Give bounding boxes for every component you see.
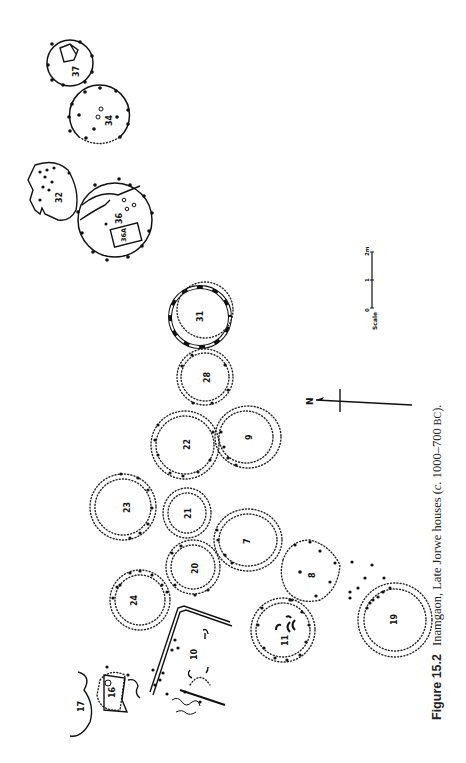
scale-tick-0: 0 — [364, 308, 370, 312]
caption-circa: c. — [430, 481, 444, 490]
house-label-17: 17 — [77, 701, 86, 712]
house-22: 22 — [151, 411, 219, 479]
house-23: 23 — [90, 472, 156, 540]
scale-tick-2: 2m — [364, 246, 370, 256]
site-plan: 37 34 32 36 36A 31 28 — [0, 0, 466, 763]
house-label-21: 21 — [184, 507, 193, 519]
caption-end: ). — [430, 405, 444, 412]
house-label-37: 37 — [72, 66, 81, 77]
house-20: 20 — [166, 540, 220, 597]
house-label-20: 20 — [191, 562, 200, 574]
house-16: 16 — [97, 665, 140, 712]
caption-era: BC — [432, 412, 443, 425]
house-label-34: 34 — [105, 114, 114, 126]
scale-tick-1: 1 — [364, 278, 370, 282]
caption-range: 1000–700 — [430, 425, 444, 481]
house-17: 17 — [70, 672, 92, 736]
house-10: 10 — [150, 606, 232, 714]
house-label-28: 28 — [203, 371, 212, 383]
north-label: N — [305, 397, 315, 405]
house-label-23: 23 — [123, 502, 132, 513]
figure-caption: Figure 15.2Inamgaon, Late Jorwe houses (… — [430, 405, 445, 720]
house-11: 11 — [251, 598, 315, 662]
house-label-24: 24 — [130, 594, 139, 606]
house-label-10: 10 — [190, 648, 199, 660]
house-label-9: 9 — [245, 434, 254, 440]
house-label-22: 22 — [183, 439, 192, 450]
house-label-19: 19 — [390, 613, 399, 625]
house-24: 24 — [110, 569, 170, 630]
house-9: 9 — [215, 406, 281, 468]
scale-label: Scale — [371, 312, 378, 330]
house-36: 36 36A — [76, 177, 154, 262]
house-label-16: 16 — [108, 686, 117, 698]
house-34: 34 — [67, 85, 130, 143]
figure-label: Figure 15.2 — [430, 654, 444, 720]
house-31: 31 — [170, 282, 233, 347]
north-arrow: N — [305, 389, 412, 412]
house-label-36a: 36A — [120, 228, 128, 242]
scale-bar: 0 1 2m Scale — [364, 246, 378, 330]
house-label-32: 32 — [55, 192, 64, 203]
house-21: 21 — [163, 488, 211, 538]
caption-text: Inamgaon, Late Jorwe houses ( — [430, 490, 444, 646]
house-label-8: 8 — [308, 572, 317, 578]
house-label-7: 7 — [243, 538, 252, 544]
house-19: 19 — [358, 583, 432, 657]
house-label-31: 31 — [196, 310, 205, 322]
house-label-11: 11 — [281, 634, 290, 646]
house-28: 28 — [177, 349, 233, 405]
house-37: 37 — [46, 40, 94, 87]
house-7: 7 — [214, 509, 282, 571]
house-32: 32 — [28, 162, 77, 220]
house-label-36: 36 — [115, 212, 124, 224]
